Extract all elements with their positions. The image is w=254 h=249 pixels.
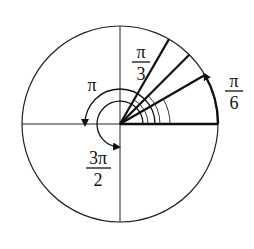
label-pi-over-6-numerator: π	[229, 71, 238, 91]
label-three-pi-over-2: 3π 2	[86, 148, 111, 190]
label-three-pi-over-2-denominator: 2	[94, 170, 103, 190]
unit-circle-diagram: π 3 π 6 π 3π 2	[0, 0, 254, 249]
label-pi-over-3-numerator: π	[136, 42, 145, 62]
label-pi-over-3-denominator: 3	[137, 64, 146, 84]
angle-arc-30	[163, 99, 170, 124]
label-three-pi-over-2-numerator: 3π	[89, 148, 107, 168]
label-pi-over-6: π 6	[225, 71, 243, 113]
label-pi: π	[87, 75, 96, 95]
arc-pi-over-6	[205, 75, 218, 124]
label-pi-over-6-denominator: 6	[230, 93, 239, 113]
